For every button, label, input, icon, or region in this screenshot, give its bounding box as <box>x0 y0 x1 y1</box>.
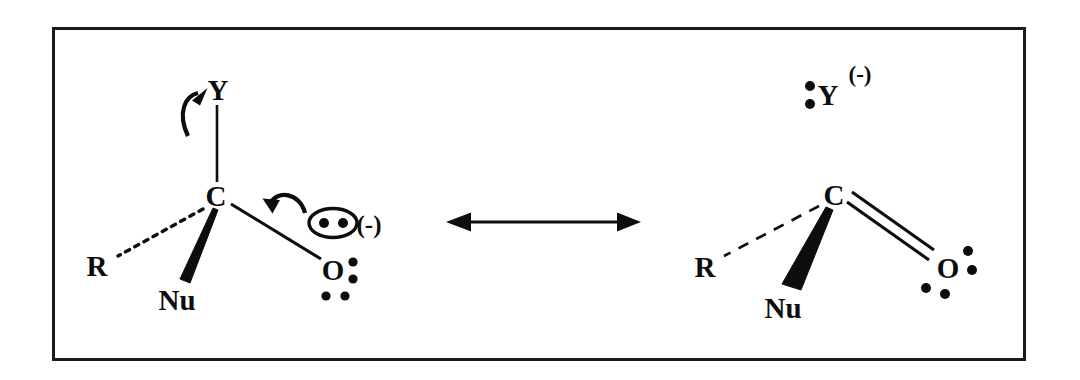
right-structure: Y (-) C R Nu O <box>695 62 977 324</box>
atom-label-o: O <box>322 254 345 286</box>
bond-c-nu <box>782 207 833 290</box>
left-structure: Y C R Nu O (-) <box>87 74 382 316</box>
arrowhead-right <box>617 213 641 232</box>
curved-arrow-c-to-y <box>183 88 208 136</box>
resonance-diagram: Y C R Nu O (-) <box>0 0 1080 380</box>
arrowhead-left <box>446 213 471 232</box>
bond-c-r <box>118 209 203 256</box>
lone-pair-o-below <box>321 291 349 300</box>
figure-canvas: Y C R Nu O (-) <box>0 0 1080 380</box>
atom-label-y: Y <box>818 79 839 111</box>
atom-label-r: R <box>695 251 717 283</box>
atom-label-o: O <box>937 252 960 284</box>
curved-arrow-o-to-c <box>263 195 306 214</box>
atom-label-c: C <box>824 179 845 211</box>
charge-negative-y: (-) <box>849 62 872 87</box>
atom-label-y: Y <box>208 74 229 106</box>
charge-negative-lone-pair: (-) <box>357 211 382 239</box>
lone-pair-circled <box>309 209 357 238</box>
bond-c-o <box>847 192 934 260</box>
figure-border <box>54 29 1025 360</box>
lone-pair-y-left <box>805 81 815 109</box>
lone-pair-o-right <box>963 246 977 275</box>
atom-label-c: C <box>206 180 227 212</box>
bond-c-o <box>231 204 321 259</box>
lone-pair-o-below <box>921 283 950 299</box>
lone-pair-o-right <box>348 257 357 283</box>
atom-label-nu: Nu <box>158 284 195 316</box>
atom-label-nu: Nu <box>764 292 801 324</box>
atom-label-r: R <box>87 250 109 282</box>
resonance-double-arrow <box>446 213 641 232</box>
